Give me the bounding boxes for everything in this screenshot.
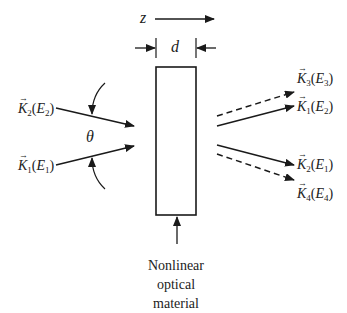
- caption-line-1: Nonlinear: [120, 256, 232, 275]
- output-beam-label-k4: K4(E4): [297, 187, 333, 203]
- output-beam-k1: [217, 106, 294, 126]
- caption-line-2: optical: [120, 275, 232, 294]
- input-beam-label-k1: K1(E1): [18, 159, 54, 175]
- z-axis-label: z: [140, 10, 146, 26]
- input-beam-k2: [56, 108, 134, 126]
- output-beam-label-k3: K3(E3): [297, 72, 333, 88]
- caption-line-3: material: [120, 294, 232, 313]
- angle-arrow-top: [92, 83, 105, 114]
- angle-label: θ: [86, 129, 94, 145]
- output-beam-k4: [217, 154, 294, 180]
- input-beam-k1: [56, 146, 134, 165]
- output-beam-k2: [217, 145, 294, 165]
- angle-arrow-bottom: [92, 158, 105, 189]
- output-beam-label-k1: K1(E2): [297, 100, 333, 116]
- output-beam-k3: [217, 92, 294, 116]
- input-beam-label-k2: K2(E2): [18, 102, 54, 118]
- thickness-label: d: [171, 39, 179, 55]
- output-beam-label-k2: K2(E1): [297, 158, 333, 174]
- material-caption: Nonlinear optical material: [120, 256, 232, 313]
- nonlinear-material-slab: [156, 67, 196, 215]
